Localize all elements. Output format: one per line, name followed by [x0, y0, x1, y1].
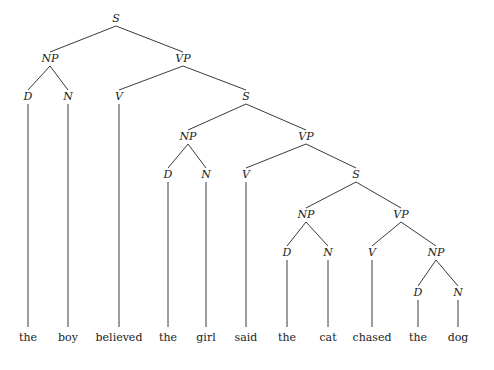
terminal-word: the: [19, 331, 37, 344]
node-vp: VP: [298, 130, 314, 143]
tree-branch: [356, 182, 401, 208]
terminal-word: girl: [196, 331, 216, 344]
node-d: D: [163, 168, 173, 181]
node-d: D: [413, 286, 423, 299]
terminal-word: the: [278, 331, 296, 344]
tree-branch: [50, 26, 116, 52]
tree-nodes: SNPVPDNVSNPVPDNVSNPVPDNVNPDN: [23, 12, 464, 299]
terminal-words: theboybelievedthegirlsaidthecatchasedthe…: [19, 331, 468, 344]
tree-branch: [28, 66, 50, 90]
terminal-word: believed: [96, 331, 143, 344]
tree-branch: [183, 66, 246, 90]
tree-branch: [188, 144, 206, 168]
tree-branch: [246, 104, 306, 130]
node-d: D: [23, 90, 33, 103]
terminal-word: the: [159, 331, 177, 344]
node-np: NP: [426, 246, 445, 259]
node-vp: VP: [175, 52, 191, 65]
terminal-word: chased: [353, 331, 392, 344]
node-vp: VP: [393, 208, 409, 221]
tree-branch: [306, 222, 328, 246]
terminal-word: said: [235, 331, 258, 344]
node-n: N: [322, 246, 333, 259]
node-v: V: [368, 246, 377, 259]
node-s: S: [112, 12, 120, 25]
tree-branch: [188, 104, 246, 130]
node-d: D: [282, 246, 292, 259]
node-s: S: [352, 168, 360, 181]
tree-branch: [246, 144, 306, 168]
tree-branch: [168, 144, 188, 168]
node-s: S: [242, 90, 250, 103]
tree-branch: [372, 222, 401, 246]
node-n: N: [452, 286, 463, 299]
tree-branch: [50, 66, 68, 90]
tree-branch: [119, 66, 183, 90]
syntax-tree-diagram: SNPVPDNVSNPVPDNVSNPVPDNVNPDN theboybelie…: [0, 0, 494, 370]
node-np: NP: [40, 52, 59, 65]
node-np: NP: [296, 208, 315, 221]
terminal-word: cat: [319, 331, 337, 344]
terminal-word: the: [409, 331, 427, 344]
tree-branch: [436, 260, 458, 286]
tree-branch: [306, 182, 356, 208]
tree-branch: [306, 144, 356, 168]
tree-branch: [116, 26, 183, 52]
node-v: V: [242, 168, 251, 181]
tree-branch: [287, 222, 306, 246]
tree-branch: [401, 222, 436, 246]
tree-edges: [28, 26, 458, 286]
tree-branch: [418, 260, 436, 286]
terminal-word: dog: [448, 331, 469, 344]
node-n: N: [62, 90, 73, 103]
terminal-word: boy: [58, 331, 79, 344]
node-v: V: [115, 90, 124, 103]
node-np: NP: [178, 130, 197, 143]
node-n: N: [200, 168, 211, 181]
